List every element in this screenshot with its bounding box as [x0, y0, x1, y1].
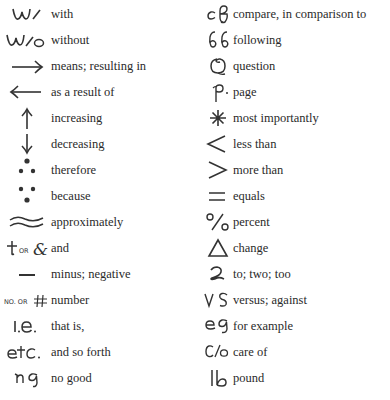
abbreviation-meaning: compare, in comparison to: [233, 7, 366, 22]
abbreviation-meaning: change: [233, 241, 268, 256]
abbreviation-meaning: decreasing: [51, 137, 104, 152]
abbreviation-meaning: and: [51, 241, 69, 256]
abbreviation-meaning: more than: [233, 163, 283, 178]
abbreviation-meaning: pound: [233, 371, 264, 386]
abbreviation-meaning: minus; negative: [51, 267, 131, 282]
svg-text:OR: OR: [19, 247, 29, 255]
and-symbol-icon: OR&: [4, 235, 50, 261]
abbreviation-meaning: no good: [51, 371, 92, 386]
minus-icon: [4, 261, 50, 287]
with-symbol-icon: [4, 1, 50, 27]
number-symbol-icon: NO. OR: [4, 287, 50, 313]
abbreviation-meaning: page: [233, 85, 257, 100]
abbreviation-meaning: equals: [233, 189, 265, 204]
abbreviation-meaning: means; resulting in: [51, 59, 146, 74]
abbreviation-meaning: percent: [233, 215, 270, 230]
because-icon: [4, 183, 50, 209]
ie-symbol-icon: [4, 313, 50, 339]
abbreviation-meaning: care of: [233, 345, 267, 360]
abbreviation-meaning: increasing: [51, 111, 102, 126]
abbreviation-meaning: for example: [233, 319, 293, 334]
therefore-icon: [4, 157, 50, 183]
abbreviation-meaning: approximately: [51, 215, 123, 230]
up-arrow-icon: [4, 105, 50, 131]
left-arrow-icon: [4, 79, 50, 105]
abbreviation-meaning: less than: [233, 137, 276, 152]
svg-text:NO. OR: NO. OR: [4, 298, 28, 306]
abbreviation-meaning: therefore: [51, 163, 96, 178]
abbreviation-meaning: to; two; too: [233, 267, 291, 282]
abbreviation-meaning: question: [233, 59, 275, 74]
abbreviation-meaning: with: [51, 7, 73, 22]
abbreviation-meaning: and so forth: [51, 345, 111, 360]
abbreviation-meaning: that is,: [51, 319, 84, 334]
without-symbol-icon: [4, 27, 50, 53]
approximately-icon: [4, 209, 50, 235]
abbreviation-meaning: most importantly: [233, 111, 319, 126]
svg-text:&: &: [33, 239, 48, 259]
ng-symbol-icon: [4, 365, 50, 391]
abbreviation-meaning: as a result of: [51, 85, 115, 100]
abbreviation-meaning: because: [51, 189, 91, 204]
abbreviation-meaning: following: [233, 33, 282, 48]
down-arrow-icon: [4, 131, 50, 157]
right-arrow-icon: [4, 53, 50, 79]
etc-symbol-icon: [4, 339, 50, 365]
abbreviation-meaning: number: [51, 293, 89, 308]
abbreviation-meaning: versus; against: [233, 293, 307, 308]
abbreviation-meaning: without: [51, 33, 89, 48]
